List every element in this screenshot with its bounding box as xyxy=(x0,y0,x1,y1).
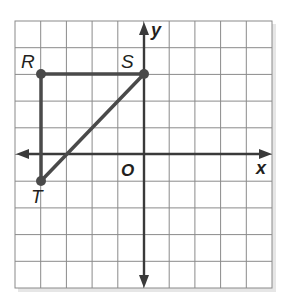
label-r: R xyxy=(21,51,35,72)
point-s xyxy=(139,69,149,79)
label-t: T xyxy=(31,186,44,207)
label-s: S xyxy=(121,51,134,72)
coordinate-plane: R S T O x y xyxy=(0,0,281,297)
point-r xyxy=(36,69,46,79)
y-axis-label: y xyxy=(150,20,162,40)
point-t xyxy=(36,176,46,186)
x-axis-label: x xyxy=(255,158,267,178)
origin-label: O xyxy=(121,161,134,180)
